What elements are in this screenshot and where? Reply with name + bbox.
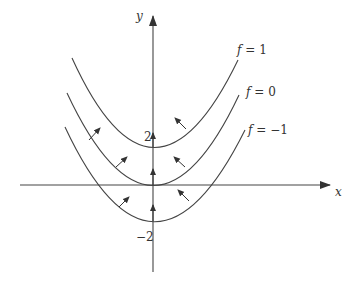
gradient-arrow: [119, 197, 129, 207]
gradient-arrow: [89, 128, 100, 140]
gradient-arrow: [178, 190, 189, 201]
curve-label-fneg1: f = −1: [247, 123, 288, 137]
level-curve-fneg1: [65, 127, 245, 222]
y-axis-label: y: [135, 9, 143, 23]
x-axis-label: x: [335, 185, 342, 199]
level-curves-plot: y x 2 −2 f = 1 f = 0 f = −1: [0, 0, 355, 292]
gradient-arrow: [116, 157, 127, 167]
curve-label-f1: f = 1: [236, 43, 267, 57]
diagram-canvas: y x 2 −2 f = 1 f = 0 f = −1: [0, 0, 355, 292]
gradient-arrow: [175, 118, 186, 129]
y-tick-2: 2: [144, 130, 152, 144]
level-curve-f1: [72, 58, 238, 148]
curve-label-f0: f = 0: [245, 85, 276, 99]
gradient-arrow: [174, 157, 185, 167]
y-tick-neg2: −2: [136, 230, 154, 244]
